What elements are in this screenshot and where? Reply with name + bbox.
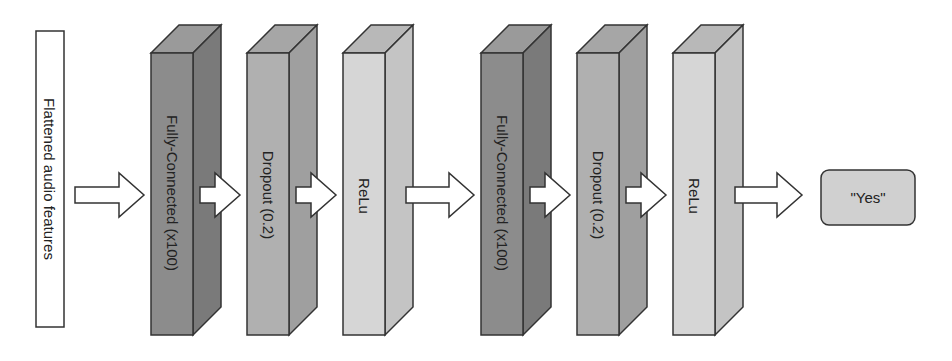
layer-label: ReLu — [686, 178, 703, 214]
layer-block-relu: ReLu — [343, 25, 413, 335]
output-label: "Yes" — [850, 189, 885, 206]
layer-label: Fully-Connected (x100) — [494, 115, 511, 271]
output-node: "Yes" — [821, 170, 915, 225]
layer-label: Dropout (0.2) — [590, 151, 607, 239]
arrow-right-icon — [406, 173, 474, 217]
layer-block-fully-connected: Fully-Connected (x100) — [151, 25, 221, 335]
layer-block-fully-connected: Fully-Connected (x100) — [481, 25, 551, 335]
network-diagram: Flattened audio features Fully-Connected… — [0, 0, 952, 361]
input-node: Flattened audio features — [36, 31, 64, 327]
layer-block-relu: ReLu — [673, 25, 743, 335]
input-label: Flattened audio features — [41, 98, 58, 260]
arrow-right-icon — [75, 173, 144, 217]
layer-label: ReLu — [356, 178, 373, 214]
layer-stack: Fully-Connected (x100)Dropout (0.2)ReLuF… — [151, 25, 743, 335]
layer-block-dropout: Dropout (0.2) — [247, 25, 317, 335]
layer-label: Fully-Connected (x100) — [164, 115, 181, 271]
arrow-right-icon — [735, 173, 802, 217]
layer-label: Dropout (0.2) — [260, 151, 277, 239]
layer-block-dropout: Dropout (0.2) — [577, 25, 647, 335]
